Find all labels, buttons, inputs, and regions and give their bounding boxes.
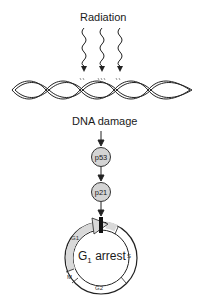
phase-g1-label: G1 — [71, 235, 79, 241]
radiation-label: Radiation — [80, 11, 126, 23]
p53-label: p53 — [95, 153, 108, 162]
p21-label: p21 — [95, 188, 108, 197]
pathway-arrows — [98, 131, 104, 216]
g1-arrest-label: G1 arrest — [78, 249, 126, 265]
phase-m-label: M — [67, 274, 72, 280]
radiation-wave-icons — [82, 28, 122, 66]
phase-g2-label: G2 — [95, 285, 103, 291]
phase-s-label: S — [127, 253, 131, 259]
dna-helix-icon — [12, 81, 192, 99]
p53-node: p53 — [91, 147, 111, 167]
dna-lesion-marks — [80, 78, 120, 80]
radiation-arrowheads — [81, 66, 123, 72]
p21-node: p21 — [91, 182, 111, 202]
dna-damage-label: DNA damage — [72, 115, 137, 127]
